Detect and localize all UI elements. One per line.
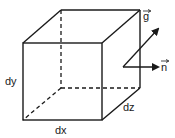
gravity-vector-label-group: g: [143, 10, 151, 23]
gravity-vector-label: g: [143, 10, 149, 22]
normal-vector-label: n: [161, 61, 167, 73]
top-right-depth-edge: [102, 10, 140, 43]
top-left-depth-edge: [23, 10, 61, 43]
dimension-label-dx: dx: [55, 124, 67, 136]
dimension-label-dz: dz: [123, 101, 135, 113]
cube-diagram: g n dy dx dz: [0, 0, 175, 138]
hidden-edge-depth: [23, 88, 61, 120]
front-face: [23, 43, 102, 120]
dimension-label-dy: dy: [5, 75, 17, 87]
normal-vector-label-group: n: [161, 60, 169, 74]
